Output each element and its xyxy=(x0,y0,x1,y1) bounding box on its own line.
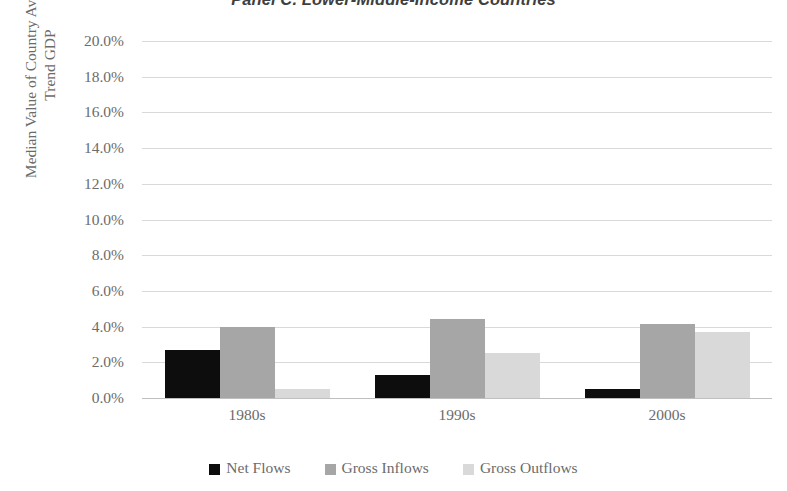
y-axis-tick-label: 16.0% xyxy=(38,103,124,121)
x-axis-line xyxy=(142,398,772,399)
x-axis-label-1990s: 1990s xyxy=(438,406,475,424)
bar-1990s-gross-inflows xyxy=(430,319,485,398)
legend-item-gross-inflows[interactable]: Gross Inflows xyxy=(325,459,429,477)
legend-swatch-icon xyxy=(463,464,474,475)
bar-2000s-net-flows xyxy=(585,389,640,398)
legend-swatch-icon xyxy=(209,464,220,475)
y-axis-tick-label: 12.0% xyxy=(38,175,124,193)
legend-label: Gross Outflows xyxy=(480,459,578,477)
legend-label: Gross Inflows xyxy=(342,459,429,477)
bar-2000s-gross-inflows xyxy=(640,324,695,398)
y-axis-tick-label: 6.0% xyxy=(38,282,124,300)
bar-1980s-gross-outflows xyxy=(275,389,330,398)
legend-item-net-flows[interactable]: Net Flows xyxy=(209,459,290,477)
chart-title: Panel C. Lower-Middle-Income Countries xyxy=(0,0,787,9)
chart-container: Panel C. Lower-Middle-Income Countries M… xyxy=(0,0,787,491)
legend-label: Net Flows xyxy=(226,459,290,477)
y-axis-tick-label: 8.0% xyxy=(38,246,124,264)
legend-item-gross-outflows[interactable]: Gross Outflows xyxy=(463,459,578,477)
legend-swatch-icon xyxy=(325,464,336,475)
y-axis-tick-label: 18.0% xyxy=(38,68,124,86)
bar-1980s-gross-inflows xyxy=(220,327,275,398)
y-axis-tick-label: 14.0% xyxy=(38,139,124,157)
y-axis-tick-label: 4.0% xyxy=(38,318,124,336)
y-axis-tick-label: 0.0% xyxy=(38,389,124,407)
y-axis-tick-label: 2.0% xyxy=(38,353,124,371)
bar-2000s-gross-outflows xyxy=(695,332,750,398)
y-axis-tick-label: 20.0% xyxy=(38,32,124,50)
bar-1990s-net-flows xyxy=(375,375,430,398)
x-axis-label-1980s: 1980s xyxy=(228,406,265,424)
x-axis-label-2000s: 2000s xyxy=(648,406,685,424)
chart-legend: Net FlowsGross InflowsGross Outflows xyxy=(0,459,787,477)
bar-series-group xyxy=(142,41,772,398)
plot-area: 20.0%18.0%16.0%14.0%12.0%10.0%8.0%6.0%4.… xyxy=(142,41,772,398)
bar-1990s-gross-outflows xyxy=(485,353,540,398)
bar-1980s-net-flows xyxy=(165,350,220,398)
y-axis-tick-label: 10.0% xyxy=(38,211,124,229)
